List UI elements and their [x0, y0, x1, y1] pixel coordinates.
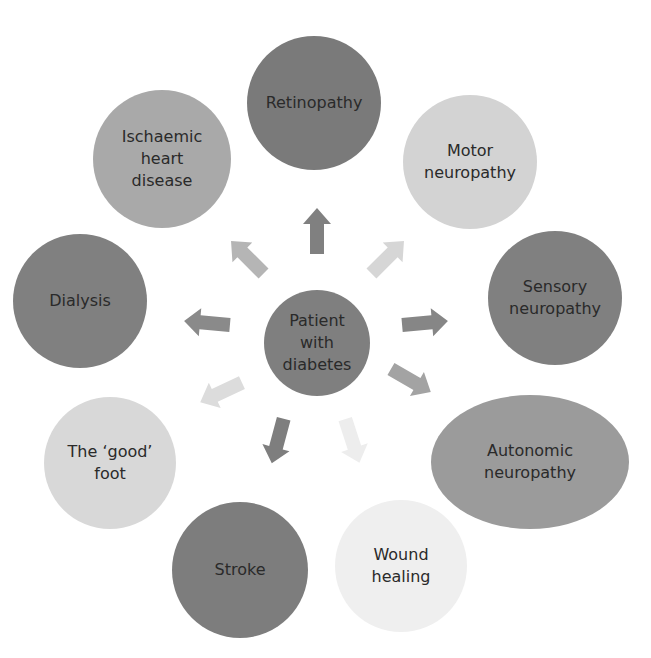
- arrow-to-autonomic-neuropathy: [384, 357, 438, 404]
- node-label: Wound healing: [372, 544, 431, 588]
- arrow-to-dialysis: [183, 307, 231, 339]
- node-label: Sensory neuropathy: [509, 276, 601, 320]
- node-wound-healing: Wound healing: [335, 500, 467, 632]
- node-ischaemic-heart-disease: Ischaemic heart disease: [93, 90, 231, 228]
- arrow-to-motor-neuropathy: [362, 231, 414, 283]
- node-retinopathy: Retinopathy: [247, 36, 381, 170]
- node-label: Autonomic neuropathy: [484, 440, 576, 484]
- node-good-foot: The ‘good’ foot: [44, 397, 176, 529]
- node-autonomic-neuropathy: Autonomic neuropathy: [431, 395, 629, 529]
- node-label: The ‘good’ foot: [68, 441, 153, 485]
- arrow-to-stroke: [258, 415, 297, 467]
- node-stroke: Stroke: [172, 502, 308, 638]
- node-motor-neuropathy: Motor neuropathy: [403, 95, 537, 229]
- arrow-to-retinopathy: [303, 208, 331, 254]
- node-dialysis: Dialysis: [13, 234, 147, 368]
- node-patient-with-diabetes: Patient with diabetes: [264, 290, 370, 396]
- node-label: Motor neuropathy: [424, 140, 516, 184]
- center-label: Patient with diabetes: [283, 310, 352, 376]
- node-sensory-neuropathy: Sensory neuropathy: [488, 231, 622, 365]
- arrow-to-wound-healing: [332, 415, 373, 467]
- node-label: Dialysis: [49, 290, 111, 312]
- node-label: Stroke: [215, 559, 266, 581]
- node-label: Retinopathy: [266, 92, 363, 114]
- node-label: Ischaemic heart disease: [122, 126, 202, 192]
- arrow-to-ischaemic-heart-disease: [221, 231, 273, 283]
- arrow-to-sensory-neuropathy: [401, 307, 449, 339]
- arrow-to-good-foot: [194, 370, 248, 415]
